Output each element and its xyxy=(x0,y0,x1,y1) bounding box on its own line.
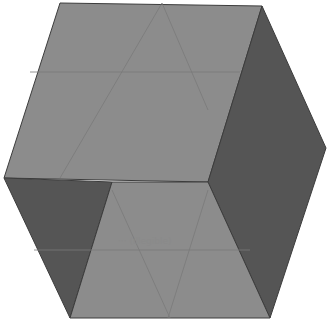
polyhedron-figure: ··· (illegible) xyxy=(0,0,328,325)
faint-label: ··· (illegible) xyxy=(118,236,171,246)
diagram-canvas: ··· (illegible) xyxy=(0,0,328,325)
faces-group xyxy=(4,3,326,318)
